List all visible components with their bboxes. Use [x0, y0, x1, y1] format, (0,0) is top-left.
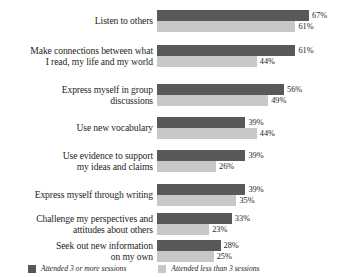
chart-row: Express myself through writing39%35% [0, 184, 342, 206]
bar-value-label: 67% [312, 11, 327, 20]
bar-value-label: 39% [248, 118, 263, 127]
legend-item-attended-less-than-3: Attended less than 3 sessions [158, 264, 259, 273]
category-label: Express myself through writing [0, 189, 157, 200]
legend-item-attended-3-or-more: Attended 3 or more sessions [28, 264, 126, 273]
bar-group: 28%25% [157, 240, 342, 262]
bar-line: 39% [157, 117, 342, 128]
bar-attended-less-than-3 [157, 128, 257, 139]
bar-value-label: 49% [271, 96, 286, 105]
bar-attended-3-or-more [157, 240, 221, 251]
legend-label-attended-3-or-more: Attended 3 or more sessions [41, 264, 126, 273]
category-label: Use evidence to support my ideas and cla… [0, 150, 157, 172]
chart-row: Use evidence to support my ideas and cla… [0, 150, 342, 172]
bar-line: 61% [157, 21, 342, 32]
bar-value-label: 39% [248, 151, 263, 160]
bar-line: 28% [157, 240, 342, 251]
bar-attended-less-than-3 [157, 95, 268, 106]
bar-value-label: 26% [219, 162, 234, 171]
grouped-bar-chart: Listen to others67%61%Make connections b… [0, 0, 342, 277]
category-label: Listen to others [0, 15, 157, 26]
category-label: Make connections between what I read, my… [0, 45, 157, 67]
bar-attended-less-than-3 [157, 251, 214, 262]
bar-line: 33% [157, 213, 342, 224]
bar-value-label: 56% [287, 85, 302, 94]
bar-value-label: 61% [298, 46, 313, 55]
bar-attended-3-or-more [157, 10, 309, 21]
bar-line: 26% [157, 161, 342, 172]
chart-row: Express myself in group discussions56%49… [0, 84, 342, 106]
category-label: Express myself in group discussions [0, 84, 157, 106]
chart-row: Listen to others67%61% [0, 10, 342, 32]
bar-attended-less-than-3 [157, 161, 216, 172]
bar-value-label: 35% [239, 196, 254, 205]
chart-row: Challenge my perspectives and attitudes … [0, 213, 342, 235]
bar-value-label: 61% [298, 22, 313, 31]
bar-line: 35% [157, 195, 342, 206]
bar-attended-3-or-more [157, 117, 245, 128]
bar-attended-less-than-3 [157, 56, 257, 67]
chart-row: Make connections between what I read, my… [0, 45, 342, 67]
legend-label-attended-less-than-3: Attended less than 3 sessions [171, 264, 259, 273]
bar-group: 33%23% [157, 213, 342, 235]
bar-line: 25% [157, 251, 342, 262]
bar-value-label: 44% [260, 57, 275, 66]
bar-value-label: 44% [260, 129, 275, 138]
bar-attended-less-than-3 [157, 195, 236, 206]
bar-group: 39%44% [157, 117, 342, 139]
chart-row: Seek out new information on my own28%25% [0, 240, 342, 262]
bar-value-label: 33% [235, 214, 250, 223]
bar-group: 56%49% [157, 84, 342, 106]
bar-group: 39%26% [157, 150, 342, 172]
bar-value-label: 23% [212, 225, 227, 234]
bar-value-label: 25% [217, 252, 232, 261]
bar-line: 67% [157, 10, 342, 21]
category-label: Challenge my perspectives and attitudes … [0, 213, 157, 235]
bar-attended-less-than-3 [157, 21, 295, 32]
bar-line: 39% [157, 150, 342, 161]
bar-line: 44% [157, 56, 342, 67]
bar-line: 44% [157, 128, 342, 139]
bar-line: 61% [157, 45, 342, 56]
bar-group: 67%61% [157, 10, 342, 32]
chart-legend: Attended 3 or more sessions Attended les… [0, 264, 342, 273]
bar-attended-less-than-3 [157, 224, 209, 235]
bar-line: 56% [157, 84, 342, 95]
bar-attended-3-or-more [157, 184, 245, 195]
chart-row: Use new vocabulary39%44% [0, 117, 342, 139]
bar-value-label: 39% [248, 185, 263, 194]
bar-attended-3-or-more [157, 150, 245, 161]
category-label: Seek out new information on my own [0, 240, 157, 262]
bar-attended-3-or-more [157, 213, 232, 224]
bar-value-label: 28% [224, 241, 239, 250]
legend-swatch-light-icon [158, 265, 166, 273]
bar-line: 49% [157, 95, 342, 106]
bar-attended-3-or-more [157, 45, 295, 56]
bar-attended-3-or-more [157, 84, 284, 95]
bar-line: 39% [157, 184, 342, 195]
bar-line: 23% [157, 224, 342, 235]
category-label: Use new vocabulary [0, 122, 157, 133]
bar-group: 39%35% [157, 184, 342, 206]
bar-group: 61%44% [157, 45, 342, 67]
legend-swatch-dark-icon [28, 265, 36, 273]
